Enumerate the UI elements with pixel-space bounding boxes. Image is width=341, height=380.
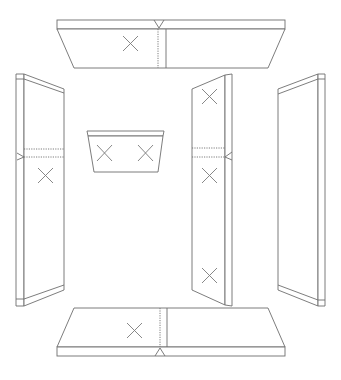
bottom-panel — [57, 308, 285, 356]
right-panel — [278, 74, 325, 306]
left-panel — [16, 74, 64, 306]
center-small-panel — [87, 131, 164, 172]
top-panel — [57, 20, 285, 68]
center-right-panel — [192, 74, 232, 306]
exploded-panel-diagram — [0, 0, 341, 380]
